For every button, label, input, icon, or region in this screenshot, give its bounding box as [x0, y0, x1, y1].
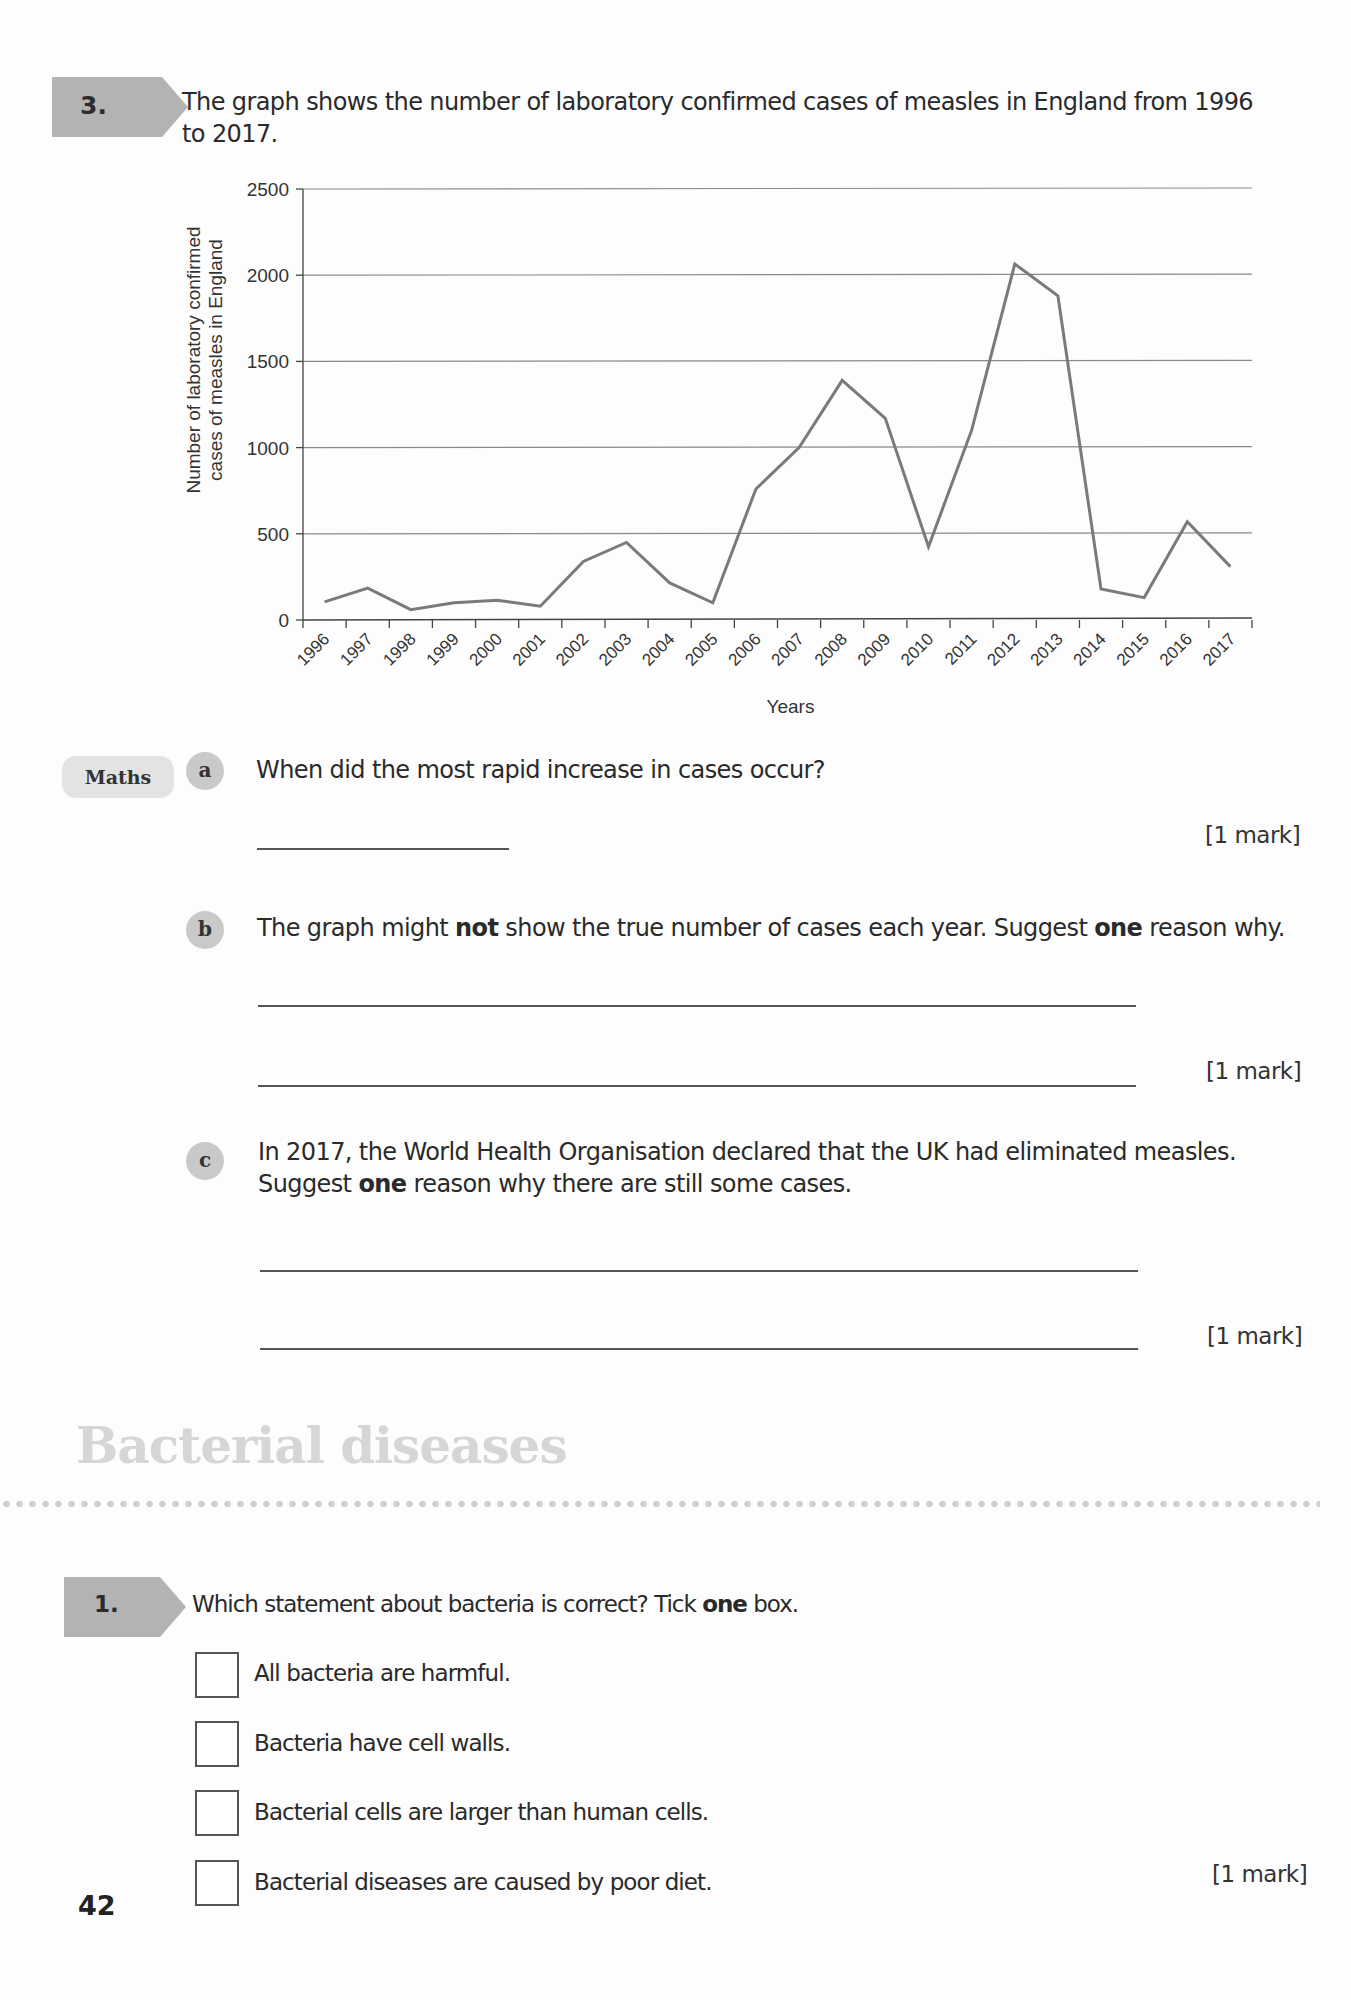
- option-checkbox-4[interactable]: [195, 1860, 239, 1906]
- x-tick-label: 2013: [1027, 629, 1067, 669]
- gridline: [303, 533, 1252, 534]
- part-b-emphasis-one: one: [1094, 914, 1142, 942]
- x-tick-label: 2004: [638, 629, 678, 669]
- x-tick-label: 2011: [941, 629, 980, 668]
- y-tick-label: 2000: [247, 265, 289, 286]
- gridline: [303, 447, 1252, 448]
- part-c-answer-line-2[interactable]: [260, 1348, 1138, 1350]
- y-axis-title-line1: Number of laboratory confirmed: [183, 226, 204, 493]
- option-label-1: All bacteria are harmful.: [254, 1660, 510, 1686]
- dotted-divider: [0, 1500, 1320, 1508]
- part-a-answer-line[interactable]: [257, 848, 509, 850]
- part-a-question: When did the most rapid increase in case…: [256, 754, 825, 786]
- x-tick-label: 2008: [811, 629, 851, 669]
- part-c-text-line1: In 2017, the World Health Organisation d…: [258, 1136, 1338, 1168]
- y-tick-label: 1000: [247, 438, 289, 459]
- part-c-text: reason why there are still some cases.: [407, 1170, 852, 1198]
- part-b-label: b: [186, 911, 224, 949]
- measles-cases-line: [325, 264, 1231, 610]
- x-tick-label: 2003: [595, 629, 635, 669]
- x-axis-title: Years: [767, 696, 815, 717]
- y-tick-label: 2500: [247, 179, 289, 200]
- y-axis-title-line2: cases of measles in England: [205, 239, 226, 481]
- option-checkbox-1[interactable]: [195, 1652, 239, 1698]
- part-c-emphasis-one: one: [358, 1170, 406, 1198]
- part-c-label: c: [186, 1142, 224, 1180]
- part-a-mark: [1 mark]: [1205, 822, 1300, 848]
- part-b-text: show the true number of cases each year.…: [498, 914, 1094, 942]
- x-tick-label: 2006: [725, 629, 765, 669]
- measles-line-chart: 0500100015002000250019961997199819992000…: [0, 0, 1351, 760]
- part-b-answer-line-2[interactable]: [258, 1085, 1136, 1087]
- x-tick-label: 2010: [897, 629, 937, 669]
- x-tick-label: 2012: [983, 629, 1023, 669]
- question-text: Which statement about bacteria is correc…: [192, 1591, 702, 1617]
- part-b-question: The graph might not show the true number…: [257, 912, 1337, 944]
- page-number: 42: [78, 1890, 116, 1921]
- maths-skill-tag: Maths: [62, 756, 174, 798]
- y-tick-label: 0: [278, 610, 289, 631]
- question-emphasis-one: one: [702, 1591, 747, 1617]
- x-tick-label: 2017: [1199, 629, 1239, 669]
- part-b-text: The graph might: [257, 914, 455, 942]
- option-label-4: Bacterial diseases are caused by poor di…: [254, 1869, 712, 1895]
- x-tick-label: 2007: [768, 629, 808, 669]
- x-tick-label: 1996: [293, 629, 333, 669]
- y-tick-label: 500: [257, 524, 289, 545]
- x-tick-label: 2001: [509, 629, 549, 669]
- part-b-mark: [1 mark]: [1206, 1058, 1301, 1084]
- part-c-answer-line-1[interactable]: [260, 1270, 1138, 1272]
- x-tick-label: 2002: [552, 629, 592, 669]
- part-b-text: reason why.: [1142, 914, 1285, 942]
- option-label-3: Bacterial cells are larger than human ce…: [254, 1799, 708, 1825]
- option-label-2: Bacteria have cell walls.: [254, 1730, 510, 1756]
- x-tick-label: 2015: [1113, 629, 1153, 669]
- y-tick-label: 1500: [247, 351, 289, 372]
- x-tick-label: 2016: [1156, 629, 1196, 669]
- x-tick-label: 2000: [466, 629, 506, 669]
- part-a-label: a: [186, 752, 224, 790]
- part-b-emphasis-not: not: [455, 914, 498, 942]
- gridline: [303, 360, 1252, 361]
- x-tick-label: 1999: [423, 629, 463, 669]
- option-checkbox-2[interactable]: [195, 1721, 239, 1767]
- part-c-question: In 2017, the World Health Organisation d…: [258, 1136, 1338, 1200]
- x-tick-label: 1997: [336, 629, 376, 669]
- part-b-answer-line-1[interactable]: [258, 1005, 1136, 1007]
- question-number: 1.: [94, 1591, 119, 1617]
- question1-mark: [1 mark]: [1212, 1861, 1307, 1887]
- gridline: [303, 274, 1252, 275]
- option-checkbox-3[interactable]: [195, 1790, 239, 1836]
- part-c-text-line2: Suggest one reason why there are still s…: [258, 1168, 1338, 1200]
- section-title: Bacterial diseases: [76, 1416, 567, 1475]
- question-text: box.: [747, 1591, 798, 1617]
- x-tick-label: 2009: [854, 629, 894, 669]
- x-axis: [303, 618, 1252, 620]
- x-tick-label: 2005: [681, 629, 721, 669]
- question-number-badge: 1.: [64, 1577, 160, 1637]
- x-tick-label: 1998: [379, 629, 419, 669]
- part-c-mark: [1 mark]: [1207, 1323, 1302, 1349]
- question-prompt: Which statement about bacteria is correc…: [192, 1588, 798, 1620]
- gridline: [303, 188, 1252, 189]
- x-tick-label: 2014: [1070, 629, 1110, 669]
- part-c-text: Suggest: [258, 1170, 358, 1198]
